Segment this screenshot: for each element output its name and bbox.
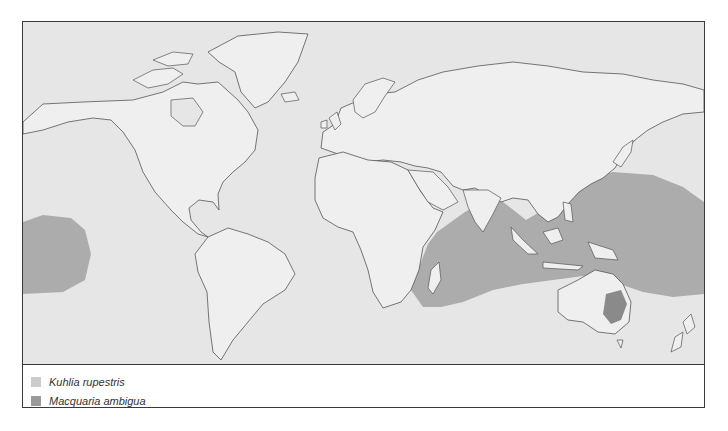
land-new-zealand (671, 314, 695, 352)
land-north-america (23, 82, 258, 237)
legend-label-kuhlia: Kuhlia rupestris (49, 376, 125, 388)
legend: Kuhlia rupestris Macquaria ambigua (31, 372, 146, 410)
legend-label-macquaria: Macquaria ambigua (49, 395, 146, 407)
legend-item-macquaria: Macquaria ambigua (31, 391, 146, 410)
map-svg (23, 22, 704, 364)
land-south-america (195, 228, 295, 360)
range-kuhlia-pacific (23, 215, 91, 294)
legend-item-kuhlia: Kuhlia rupestris (31, 372, 146, 391)
land-tasmania (617, 340, 623, 348)
legend-swatch-kuhlia (31, 377, 41, 387)
legend-swatch-macquaria (31, 396, 41, 406)
world-map (23, 22, 704, 365)
figure-frame: Kuhlia rupestris Macquaria ambigua (22, 21, 705, 408)
land-iceland (281, 92, 299, 102)
